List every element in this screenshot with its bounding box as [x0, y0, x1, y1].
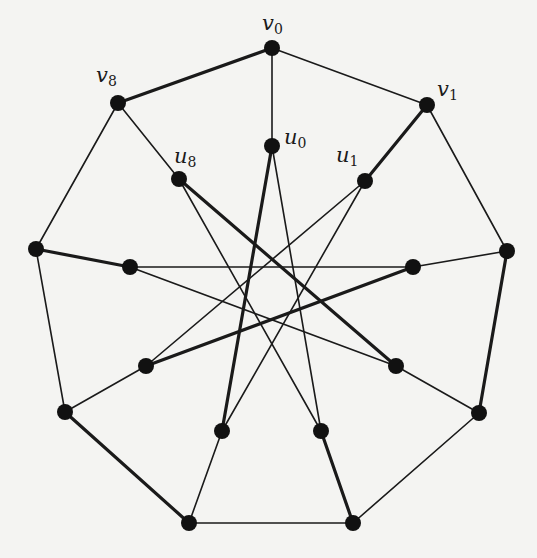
edge-v2-v3	[479, 251, 507, 413]
edge-v7-u7	[36, 249, 130, 267]
vertex-u1	[357, 173, 373, 189]
vertex-label-v0: v0	[262, 11, 283, 37]
vertex-label-u0: u0	[284, 125, 306, 151]
vertex-v7	[28, 241, 44, 257]
edge-v4-u4	[321, 431, 353, 523]
edge-v2-u2	[413, 251, 507, 267]
edge-v7-v8	[36, 103, 118, 249]
vertex-v2	[499, 243, 515, 259]
vertex-u4	[313, 423, 329, 439]
vertex-label-u8: u8	[174, 144, 196, 170]
edge-v5-u5	[189, 431, 222, 523]
vertex-label-u1: u1	[336, 143, 358, 169]
vertex-v3	[471, 405, 487, 421]
vertex-label-v8: v8	[96, 63, 117, 89]
vertex-u3	[388, 358, 404, 374]
graph-diagram: v0v1v8u0u1u8	[0, 0, 537, 558]
vertex-v1	[419, 97, 435, 113]
vertex-u5	[214, 423, 230, 439]
vertex-v8	[110, 95, 126, 111]
edge-v0-v1	[272, 48, 427, 105]
edge-v3-u3	[396, 366, 479, 413]
edge-u1-u6	[146, 181, 365, 366]
vertex-label-v1: v1	[437, 77, 458, 103]
edge-v1-v2	[427, 105, 507, 251]
vertex-v4	[345, 515, 361, 531]
edge-layer	[36, 48, 507, 523]
vertex-v5	[181, 515, 197, 531]
vertex-v0	[264, 40, 280, 56]
edge-v8-v0	[118, 48, 272, 103]
vertex-u2	[405, 259, 421, 275]
edge-v8-u8	[118, 103, 179, 179]
edge-u3-u8	[179, 179, 396, 366]
vertex-u6	[138, 358, 154, 374]
edge-v1-u1	[365, 105, 427, 181]
edge-v3-v4	[353, 413, 479, 523]
edge-v5-v6	[65, 412, 189, 523]
edge-u2-u6	[146, 267, 413, 366]
vertex-u7	[122, 259, 138, 275]
vertex-u0	[264, 138, 280, 154]
edge-v6-u6	[65, 366, 146, 412]
vertex-u8	[171, 171, 187, 187]
edge-v6-v7	[36, 249, 65, 412]
vertex-v6	[57, 404, 73, 420]
edge-u3-u7	[130, 267, 396, 366]
